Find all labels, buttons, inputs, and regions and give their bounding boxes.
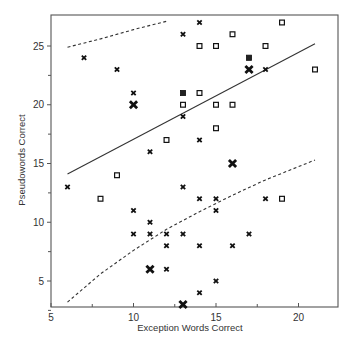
x-tick-label: 5 — [48, 312, 54, 323]
cross-marker — [181, 32, 185, 36]
filled-square-marker — [246, 55, 251, 60]
cross-marker — [214, 279, 218, 283]
cross-marker — [181, 232, 185, 236]
open-square-marker — [280, 196, 285, 201]
cross-marker — [164, 244, 168, 248]
plot-frame — [51, 15, 338, 307]
cross-marker — [65, 185, 69, 189]
cross-marker — [214, 208, 218, 212]
open-square-marker — [115, 173, 120, 178]
cross-marker — [131, 232, 135, 236]
cross-marker — [197, 244, 201, 248]
plot-border — [51, 15, 338, 307]
cross-marker — [214, 197, 218, 201]
scatter-chart: 5101520510152025 Exception Words Correct… — [0, 0, 351, 344]
y-tick-label: 15 — [33, 158, 45, 169]
cross-marker — [148, 232, 152, 236]
cross-marker — [197, 138, 201, 142]
open-square-marker — [197, 44, 202, 49]
cross-marker — [263, 197, 267, 201]
open-square-marker — [230, 102, 235, 107]
cross-marker — [131, 91, 135, 95]
open-square-marker — [280, 20, 285, 25]
cross-marker — [164, 232, 168, 236]
chart-canvas: 5101520510152025 Exception Words Correct… — [0, 0, 351, 344]
cross-marker — [230, 244, 234, 248]
cross-marker — [197, 197, 201, 201]
large-cross-marker — [245, 66, 252, 73]
large-cross-marker — [130, 101, 137, 108]
cross-marker — [247, 232, 251, 236]
open-square-marker — [197, 91, 202, 96]
open-square-marker — [98, 196, 103, 201]
y-tick-label: 20 — [33, 99, 45, 110]
y-tick-label: 5 — [38, 276, 44, 287]
cross-marker — [131, 208, 135, 212]
open-square-marker — [263, 44, 268, 49]
open-square-marker — [230, 32, 235, 37]
y-axis-label: Pseudowords Correct — [16, 114, 27, 206]
cross-marker — [82, 56, 86, 60]
large-cross-marker — [229, 160, 236, 167]
cross-marker — [148, 150, 152, 154]
cross-marker — [197, 20, 201, 24]
regression-line — [68, 44, 316, 174]
large-cross-marker — [146, 266, 153, 273]
cross-marker — [164, 267, 168, 271]
open-square-marker — [214, 102, 219, 107]
open-square-marker — [214, 126, 219, 131]
upper-prediction-bound — [68, 21, 167, 47]
y-tick-label: 10 — [33, 217, 45, 228]
x-tick-label: 20 — [293, 312, 305, 323]
filled-square-marker — [180, 90, 185, 95]
open-square-marker — [313, 67, 318, 72]
cross-marker — [148, 220, 152, 224]
fit-lines — [68, 21, 316, 302]
cross-marker — [197, 291, 201, 295]
lower-prediction-bound — [68, 160, 316, 302]
cross-marker — [115, 67, 119, 71]
cross-marker — [181, 114, 185, 118]
open-square-marker — [181, 102, 186, 107]
data-points — [65, 20, 317, 308]
x-axis-label: Exception Words Correct — [137, 322, 243, 333]
cross-marker — [181, 185, 185, 189]
axis-ticks: 5101520510152025 — [33, 41, 305, 324]
open-square-marker — [214, 44, 219, 49]
open-square-marker — [164, 138, 169, 143]
y-tick-label: 25 — [33, 41, 45, 52]
